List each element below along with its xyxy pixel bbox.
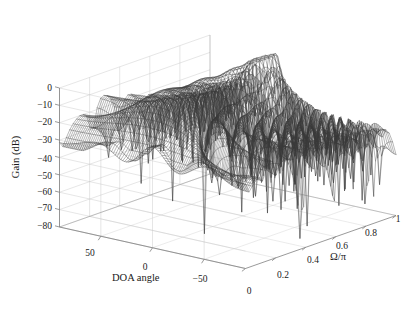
z-tick-label: −70 (37, 204, 52, 214)
plot-canvas (0, 0, 411, 313)
wireframe-mesh-surface (60, 54, 397, 239)
y-tick-label: 0.4 (307, 256, 319, 266)
y-axis-title: Ω/π (330, 252, 346, 263)
z-tick-label: −40 (37, 155, 52, 165)
y-tick-label: 0.8 (365, 229, 377, 239)
z-tick-label: −60 (37, 188, 52, 198)
z-tick-label: −20 (37, 118, 52, 128)
z-tick-label: −30 (37, 136, 52, 146)
y-tick-label: 1 (396, 215, 401, 225)
z-tick-label: −50 (37, 172, 52, 182)
x-axis-title: DOA angle (112, 273, 160, 284)
y-tick-label: 0 (247, 287, 252, 297)
z-tick-label: −10 (37, 101, 52, 111)
z-tick-label: 0 (47, 84, 52, 94)
figure-3d-mesh-plot: 0 −10 −20 −30 −40 −50 −60 −70 −80 50 0 −… (0, 0, 411, 313)
z-tick-label: −80 (37, 222, 52, 232)
x-tick-label: 50 (85, 249, 95, 259)
y-tick-label: 0.2 (277, 271, 289, 281)
z-axis-title: Gain (dB) (11, 136, 22, 178)
x-tick-label: −50 (193, 275, 208, 285)
